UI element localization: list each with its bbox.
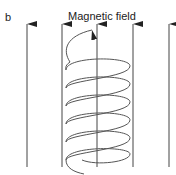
coil [66, 30, 130, 174]
magnetic-field-diagram [0, 0, 176, 175]
